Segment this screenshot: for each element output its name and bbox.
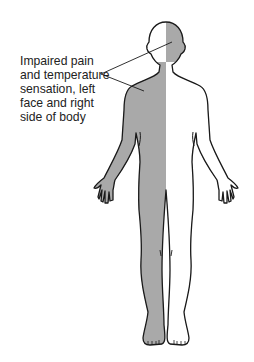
body-figure: [0, 0, 254, 362]
affected-region-right-body: [94, 22, 238, 345]
